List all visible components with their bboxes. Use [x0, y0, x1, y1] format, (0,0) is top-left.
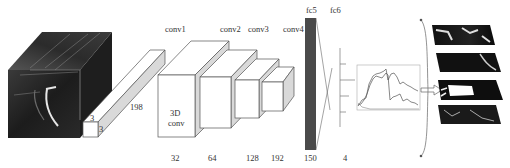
layer-size-labels: 32 64 128 192 150 4	[171, 153, 348, 163]
conv4-label: conv4	[283, 24, 305, 34]
result-image-1	[432, 25, 495, 45]
result-image-2	[436, 53, 501, 72]
conv1-inner-label-2: conv	[168, 118, 185, 128]
cnn-architecture-diagram: 3 3 198 3D conv conv1 conv2 conv3 conv4 …	[0, 0, 510, 168]
kernel-depth-label: 198	[130, 102, 143, 112]
conv2-label: conv2	[220, 24, 241, 34]
result-image-4	[438, 105, 501, 124]
output-arrow-icon	[421, 85, 442, 95]
conv2-size: 64	[208, 153, 217, 163]
fc-connections	[316, 18, 332, 150]
kernel-rod-front	[83, 122, 98, 137]
result-images	[432, 25, 503, 124]
input-volume-front	[8, 70, 80, 138]
fc5-layer: fc5	[305, 5, 317, 150]
fc5-label: fc5	[306, 5, 317, 15]
fc6-output-axis	[340, 48, 355, 127]
conv1-inner-label-1: 3D	[170, 108, 180, 118]
fc5-size: 150	[304, 153, 317, 163]
kernel-width-label: 3	[90, 113, 94, 123]
conv3-size: 128	[246, 153, 259, 163]
fc6-label: fc6	[330, 5, 341, 15]
conv3-label: conv3	[248, 24, 269, 34]
kernel-height-label: 3	[99, 124, 103, 134]
result-image-3	[438, 80, 503, 100]
conv1-label: conv1	[165, 24, 186, 34]
fc6-size: 4	[343, 153, 348, 163]
time-series-plot	[357, 65, 420, 110]
conv4-size: 192	[271, 153, 284, 163]
conv1-size: 32	[171, 153, 180, 163]
